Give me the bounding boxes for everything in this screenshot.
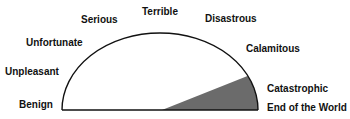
label-terrible: Terrible: [142, 7, 178, 17]
label-catastrophic: Catastrophic: [267, 84, 328, 94]
label-unfortunate: Unfortunate: [26, 38, 83, 48]
label-calamitous: Calamitous: [246, 44, 300, 54]
label-end-of-the-world: End of the World: [267, 103, 347, 113]
label-serious: Serious: [81, 15, 118, 25]
label-disastrous: Disastrous: [205, 14, 257, 24]
label-benign: Benign: [19, 100, 53, 110]
label-unpleasant: Unpleasant: [5, 67, 59, 77]
